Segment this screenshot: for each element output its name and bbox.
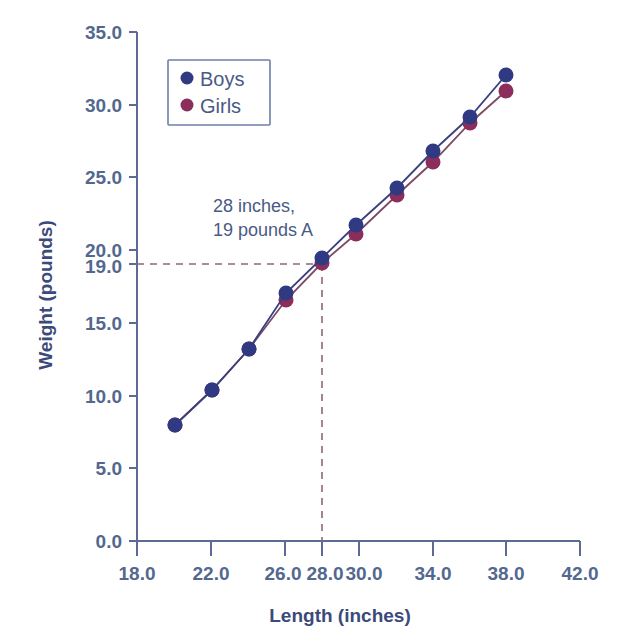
series-girls bbox=[168, 84, 514, 433]
data-point-boys-34 bbox=[426, 144, 441, 159]
data-point-boys-38 bbox=[499, 68, 514, 83]
circle-marker-boys-icon bbox=[181, 72, 194, 85]
line-chart: 35.0 30.0 25.0 20.0 19.0 15.0 10.0 5.0 0… bbox=[0, 0, 636, 644]
y-axis-title: Weight (pounds) bbox=[35, 220, 56, 370]
y-tick-label-5: 5.0 bbox=[96, 458, 122, 479]
chart-legend: Boys Girls bbox=[168, 60, 270, 125]
data-point-boys-32 bbox=[390, 181, 405, 196]
y-tick-label-15: 15.0 bbox=[85, 313, 122, 334]
x-tick-label-34: 34.0 bbox=[415, 563, 452, 584]
legend-label-boys: Boys bbox=[200, 68, 244, 90]
data-point-girls-38 bbox=[499, 84, 514, 99]
x-axis: 18.0 22.0 26.0 28.0 30.0 34.0 38.0 42.0 bbox=[119, 541, 599, 584]
x-tick-label-18: 18.0 bbox=[119, 563, 156, 584]
data-point-boys-28 bbox=[315, 251, 330, 266]
y-tick-label-25: 25.0 bbox=[85, 167, 122, 188]
y-tick-label-35: 35.0 bbox=[85, 22, 122, 43]
x-tick-label-28: 28.0 bbox=[307, 563, 344, 584]
annotation-line-1: 28 inches, bbox=[213, 196, 295, 216]
y-tick-label-19: 19.0 bbox=[85, 256, 122, 277]
data-point-boys-22 bbox=[205, 383, 220, 398]
y-tick-label-10: 10.0 bbox=[85, 386, 122, 407]
y-tick-label-0: 0.0 bbox=[96, 531, 122, 552]
y-axis: 35.0 30.0 25.0 20.0 19.0 15.0 10.0 5.0 0… bbox=[85, 22, 137, 552]
chart-container: 35.0 30.0 25.0 20.0 19.0 15.0 10.0 5.0 0… bbox=[0, 0, 636, 644]
annotation-reference-point-a: 28 inches, 19 pounds A bbox=[213, 196, 313, 240]
x-tick-label-30: 30.0 bbox=[346, 563, 383, 584]
x-tick-label-26: 26.0 bbox=[265, 563, 302, 584]
data-point-boys-20 bbox=[168, 418, 183, 433]
annotation-line-2: 19 pounds A bbox=[213, 220, 313, 240]
data-point-boys-24 bbox=[242, 342, 257, 357]
data-point-boys-30 bbox=[349, 218, 364, 233]
circle-marker-girls-icon bbox=[181, 99, 194, 112]
x-tick-label-42: 42.0 bbox=[562, 563, 599, 584]
y-tick-label-30: 30.0 bbox=[85, 95, 122, 116]
legend-label-girls: Girls bbox=[200, 95, 241, 117]
series-boys-line bbox=[175, 75, 506, 425]
data-point-boys-26 bbox=[279, 286, 294, 301]
x-axis-title: Length (inches) bbox=[269, 605, 410, 626]
x-tick-label-38: 38.0 bbox=[488, 563, 525, 584]
data-point-boys-36 bbox=[463, 110, 478, 125]
x-tick-label-22: 22.0 bbox=[193, 563, 230, 584]
